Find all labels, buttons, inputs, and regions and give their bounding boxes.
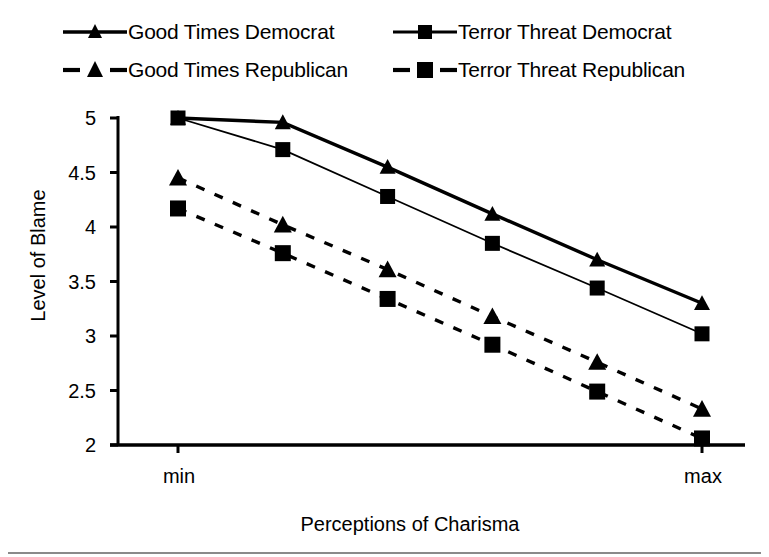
data-point-marker: [379, 261, 397, 278]
data-point-marker: [170, 200, 186, 216]
data-point-marker: [275, 245, 291, 261]
data-point-marker: [588, 353, 606, 370]
data-point-marker: [380, 189, 395, 204]
data-point-marker: [693, 400, 711, 417]
data-point-marker: [485, 236, 500, 251]
data-point-marker: [275, 142, 290, 157]
y-axis-tick-label: 3: [50, 326, 96, 346]
y-axis-tick-label: 4.5: [50, 163, 96, 183]
chart-series-group: [169, 110, 711, 446]
data-point-marker: [484, 206, 500, 221]
y-axis-tick-label: 2.5: [50, 381, 96, 401]
y-axis-tick-label: 5: [50, 108, 96, 128]
chart-figure: Good Times Democrat Terror Threat Democr…: [0, 0, 769, 557]
data-point-marker: [484, 337, 500, 353]
data-point-marker: [590, 281, 605, 296]
y-axis-tick-label: 3.5: [50, 272, 96, 292]
data-point-marker: [380, 291, 396, 307]
y-axis-tick-label: 2: [50, 435, 96, 455]
x-axis-title: Perceptions of Charisma: [120, 513, 700, 536]
x-axis-tick-label-max: max: [663, 466, 743, 486]
chart-series-terror-threat-democrat: [171, 111, 710, 342]
chart-axes: [110, 116, 745, 453]
data-point-marker: [483, 307, 501, 324]
y-axis-tick-label: 4: [50, 217, 96, 237]
chart-plot-area: [0, 0, 769, 557]
data-point-marker: [695, 326, 710, 341]
chart-series-terror-threat-republican: [170, 200, 710, 446]
data-point-marker: [171, 111, 186, 126]
data-point-marker: [274, 216, 292, 233]
y-axis-title: Level of Blame: [27, 156, 50, 356]
data-point-marker: [169, 169, 187, 186]
page-bottom-rule: [8, 552, 761, 554]
data-point-marker: [694, 430, 710, 446]
chart-series-good-times-republican: [169, 169, 711, 417]
data-point-marker: [589, 384, 605, 400]
x-axis-tick-label-min: min: [139, 466, 219, 486]
